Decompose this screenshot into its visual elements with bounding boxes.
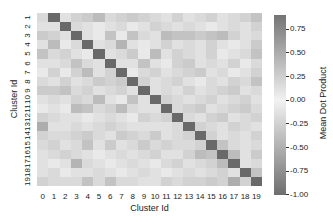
heatmap-cell xyxy=(116,86,127,95)
heatmap-cell xyxy=(93,150,104,159)
heatmap-cell xyxy=(217,77,228,86)
heatmap-cell xyxy=(161,159,172,168)
heatmap-cell xyxy=(240,168,251,177)
heatmap-cell xyxy=(105,122,116,131)
heatmap-cell xyxy=(116,131,127,140)
heatmap-cell xyxy=(37,95,48,104)
heatmap-cell xyxy=(127,122,138,131)
heatmap-cell xyxy=(161,95,172,104)
heatmap-cell xyxy=(228,31,239,40)
heatmap-cell xyxy=(228,113,239,122)
heatmap-cell xyxy=(217,95,228,104)
heatmap-cell xyxy=(138,59,149,68)
heatmap-cell xyxy=(37,177,48,186)
heatmap-cell xyxy=(161,68,172,77)
heatmap-cell xyxy=(172,31,183,40)
heatmap-cell xyxy=(150,177,161,186)
heatmap-cell xyxy=(183,113,194,122)
heatmap-cell xyxy=(93,77,104,86)
heatmap-cell xyxy=(82,68,93,77)
heatmap-cell xyxy=(183,150,194,159)
heatmap-cell xyxy=(150,40,161,49)
heatmap-cell xyxy=(116,168,127,177)
heatmap-cell xyxy=(206,122,217,131)
heatmap-cell xyxy=(183,95,194,104)
heatmap-cell xyxy=(195,13,206,22)
heatmap-cell xyxy=(172,113,183,122)
heatmap-cell xyxy=(150,31,161,40)
heatmap-cell xyxy=(183,177,194,186)
heatmap-cell xyxy=(251,95,262,104)
heatmap-cell xyxy=(195,122,206,131)
heatmap-cell xyxy=(116,68,127,77)
heatmap-cell xyxy=(217,122,228,131)
heatmap-cell xyxy=(172,159,183,168)
heatmap-cell xyxy=(228,150,239,159)
heatmap-cell xyxy=(251,113,262,122)
x-tick-label: 7 xyxy=(116,192,127,201)
heatmap-cell xyxy=(183,77,194,86)
heatmap-cell xyxy=(217,49,228,58)
heatmap-cell xyxy=(71,177,82,186)
heatmap-cell xyxy=(71,150,82,159)
heatmap-cell xyxy=(172,150,183,159)
x-tick-label: 19 xyxy=(251,192,262,201)
heatmap-cell xyxy=(127,86,138,95)
heatmap-cell xyxy=(217,22,228,31)
colorbar-tick-label: -0.75 xyxy=(286,167,308,175)
heatmap-cell xyxy=(127,159,138,168)
x-tick-label: 15 xyxy=(206,192,217,201)
heatmap-cell xyxy=(206,150,217,159)
heatmap-cell xyxy=(71,113,82,122)
heatmap-cell xyxy=(138,113,149,122)
heatmap-cell xyxy=(127,31,138,40)
heatmap-cell xyxy=(82,22,93,31)
heatmap-cell xyxy=(161,59,172,68)
heatmap-cell xyxy=(251,49,262,58)
heatmap-cell xyxy=(82,150,93,159)
heatmap-cell xyxy=(60,104,71,113)
heatmap-cell xyxy=(48,86,59,95)
heatmap-cell xyxy=(82,49,93,58)
heatmap-cell xyxy=(105,31,116,40)
heatmap-cell xyxy=(105,113,116,122)
heatmap-cell xyxy=(93,22,104,31)
heatmap-cell xyxy=(150,104,161,113)
x-tick-label: 11 xyxy=(161,192,172,201)
heatmap-cell xyxy=(150,122,161,131)
heatmap-cell xyxy=(138,40,149,49)
heatmap-cell xyxy=(116,150,127,159)
heatmap-cell xyxy=(217,59,228,68)
heatmap-cell xyxy=(161,77,172,86)
heatmap-cell xyxy=(105,150,116,159)
heatmap-cell xyxy=(251,40,262,49)
heatmap-cell xyxy=(37,40,48,49)
heatmap-cell xyxy=(116,104,127,113)
x-tick-label: 0 xyxy=(37,192,48,201)
heatmap-cell xyxy=(37,31,48,40)
heatmap-cell xyxy=(138,68,149,77)
heatmap-cell xyxy=(48,113,59,122)
heatmap-cell xyxy=(217,159,228,168)
heatmap-cell xyxy=(251,59,262,68)
heatmap-cell xyxy=(195,59,206,68)
heatmap-cell xyxy=(206,40,217,49)
colorbar-tick-label: -0.50 xyxy=(286,144,308,152)
heatmap-cell xyxy=(60,86,71,95)
heatmap-cell xyxy=(228,168,239,177)
heatmap-cell xyxy=(150,113,161,122)
heatmap-cell xyxy=(251,31,262,40)
heatmap-cell xyxy=(82,168,93,177)
heatmap-cell xyxy=(37,59,48,68)
heatmap-cell xyxy=(48,150,59,159)
heatmap-cell xyxy=(48,131,59,140)
heatmap-cell xyxy=(82,104,93,113)
heatmap-cell xyxy=(206,77,217,86)
x-tick-label: 12 xyxy=(172,192,183,201)
heatmap-cell xyxy=(206,31,217,40)
heatmap-cell xyxy=(116,59,127,68)
heatmap-cell xyxy=(183,68,194,77)
heatmap-cell xyxy=(37,13,48,22)
heatmap-cell xyxy=(60,68,71,77)
heatmap-cell xyxy=(138,95,149,104)
